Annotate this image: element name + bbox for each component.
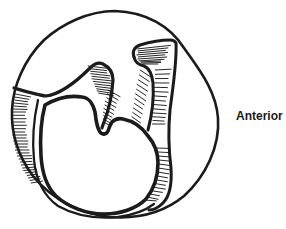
- annulus-outer-line: [33, 100, 154, 218]
- hatch-band-head: [137, 45, 171, 64]
- membrane-kidney-outline: [41, 96, 158, 214]
- figure-panel: Anterior: [0, 0, 286, 229]
- malleus-fold-contour: [14, 63, 113, 128]
- hatch-band-left-shadow: [131, 70, 151, 125]
- anterior-label: Anterior: [236, 109, 283, 123]
